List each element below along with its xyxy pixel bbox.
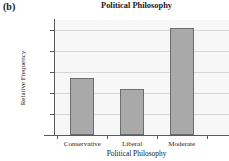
y-axis-tick xyxy=(50,30,55,31)
gridline xyxy=(55,51,229,52)
y-axis-line xyxy=(54,19,55,136)
x-axis-title: Political Philosophy xyxy=(44,149,229,158)
y-axis-title: Relative Frequency xyxy=(19,50,27,105)
y-axis-tick xyxy=(50,51,55,52)
x-axis-tick-label: Moderate xyxy=(142,140,222,149)
y-axis-tick xyxy=(50,93,55,94)
x-axis-tick xyxy=(207,135,208,139)
y-axis-tick xyxy=(50,135,55,136)
figure: (b) Political Philosophy Relative Freque… xyxy=(0,0,229,161)
y-axis-tick xyxy=(50,114,55,115)
bar-liberal xyxy=(120,89,144,135)
y-axis-title-container: Relative Frequency xyxy=(17,20,29,135)
y-axis-tick xyxy=(50,72,55,73)
x-axis-tick xyxy=(107,135,108,139)
x-axis-line xyxy=(44,135,229,136)
bar-conservative xyxy=(70,78,94,136)
x-axis-tick xyxy=(157,135,158,139)
gridline xyxy=(55,72,229,73)
chart-title: Political Philosophy xyxy=(44,1,229,11)
x-axis-tick xyxy=(57,135,58,139)
panel-label: (b) xyxy=(3,1,15,13)
gridline xyxy=(55,30,229,31)
bar-moderate xyxy=(170,28,194,135)
